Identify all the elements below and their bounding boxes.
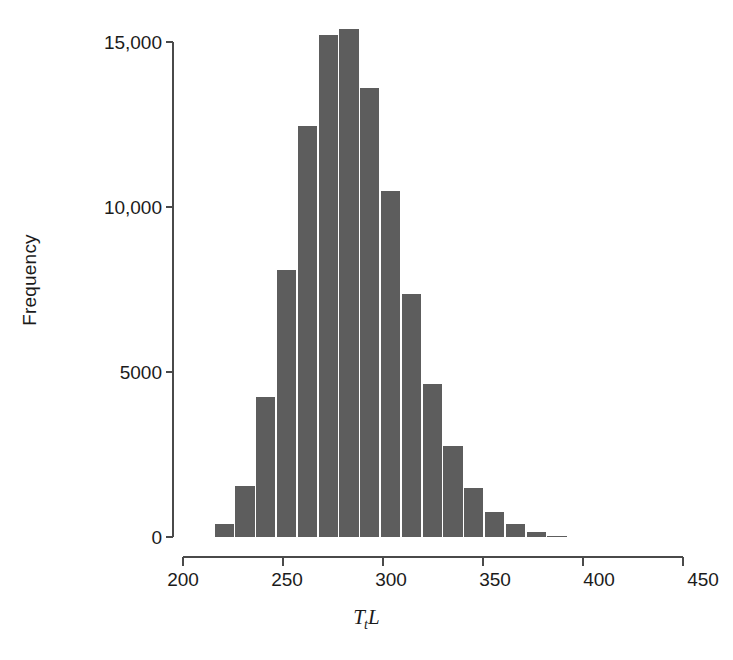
x-axis-tick-labels: 200250300350400450	[0, 570, 733, 600]
histogram-bar	[464, 488, 483, 538]
histogram-bar	[547, 536, 566, 538]
y-axis-tick-labels: 0500010,00015,000	[44, 0, 162, 660]
x-axis-tick-label: 350	[479, 570, 511, 589]
histogram-bar	[360, 88, 379, 537]
histogram-bar	[298, 126, 317, 537]
histogram-bar	[443, 446, 462, 537]
y-axis-tick-label: 10,000	[44, 198, 162, 217]
histogram-bar	[256, 397, 275, 537]
histogram-bar	[506, 524, 525, 537]
y-axis-tick-label: 0	[44, 528, 162, 547]
x-axis-tick-label: 200	[167, 570, 199, 589]
x-axis-tick-label: 400	[583, 570, 615, 589]
histogram-bar	[485, 512, 504, 537]
histogram-figure: Frequency 0500010,00015,000 200250300350…	[0, 0, 733, 660]
histogram-bar	[339, 29, 358, 537]
x-axis-title-variable2: L	[368, 605, 380, 629]
histogram-bar	[527, 532, 546, 537]
x-axis-title: TtL	[0, 605, 733, 633]
y-axis-tick-label: 5000	[44, 363, 162, 382]
x-axis-tick-label: 450	[687, 570, 719, 589]
histogram-bar	[319, 35, 338, 537]
histogram-bar	[402, 294, 421, 537]
histogram-bar	[277, 270, 296, 537]
histogram-bar	[215, 524, 234, 537]
histogram-bar	[381, 191, 400, 538]
plot-area	[173, 42, 693, 537]
y-axis-title-text: Frequency	[19, 234, 41, 326]
x-axis-tick-label: 300	[375, 570, 407, 589]
y-axis-tick-label: 15,000	[44, 33, 162, 52]
x-axis-tick-label: 250	[271, 570, 303, 589]
histogram-bar	[423, 384, 442, 537]
histogram-bar	[235, 486, 254, 537]
